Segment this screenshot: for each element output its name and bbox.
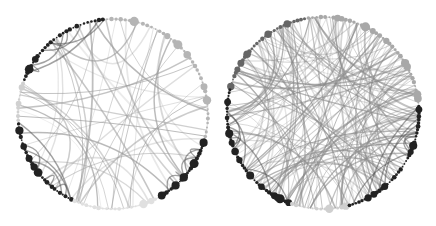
- node: [351, 203, 354, 206]
- node: [396, 51, 400, 55]
- node: [227, 95, 229, 97]
- node: [290, 202, 294, 206]
- node: [150, 26, 153, 29]
- node: [52, 38, 55, 41]
- node: [97, 18, 101, 22]
- node: [106, 18, 108, 20]
- node: [328, 16, 330, 18]
- node: [251, 47, 254, 50]
- node: [67, 197, 69, 199]
- node: [56, 37, 58, 39]
- node: [331, 16, 335, 20]
- node: [231, 148, 239, 156]
- node: [292, 20, 296, 24]
- node: [94, 19, 97, 22]
- node: [386, 183, 389, 186]
- node: [237, 60, 244, 67]
- node: [203, 96, 211, 104]
- node: [319, 15, 324, 20]
- node: [117, 207, 121, 211]
- node: [39, 52, 41, 54]
- node: [58, 33, 62, 37]
- node: [101, 17, 105, 21]
- node: [122, 207, 124, 209]
- node: [278, 25, 282, 29]
- node: [24, 74, 28, 78]
- node: [135, 205, 137, 207]
- node: [303, 17, 306, 20]
- node: [53, 187, 57, 191]
- node: [357, 23, 359, 25]
- node: [232, 74, 236, 78]
- node: [312, 208, 314, 210]
- right-network: [224, 15, 422, 213]
- node: [16, 101, 22, 107]
- node: [114, 17, 117, 20]
- node: [85, 203, 89, 207]
- node: [308, 207, 310, 209]
- node: [102, 207, 104, 209]
- node: [228, 91, 231, 94]
- node: [195, 68, 198, 71]
- node: [402, 166, 404, 168]
- node: [414, 85, 416, 87]
- node: [191, 60, 195, 64]
- node: [141, 22, 145, 26]
- node: [315, 207, 319, 211]
- node: [199, 149, 203, 153]
- node: [24, 151, 28, 155]
- edge: [125, 20, 171, 189]
- node: [410, 76, 414, 80]
- node: [415, 131, 418, 134]
- node: [417, 121, 421, 125]
- node: [399, 167, 403, 171]
- node: [32, 62, 34, 64]
- node: [413, 90, 421, 98]
- node: [17, 110, 20, 113]
- node: [404, 163, 406, 165]
- node: [236, 154, 238, 156]
- node: [255, 181, 258, 184]
- node: [323, 15, 327, 19]
- node: [414, 139, 416, 141]
- node: [226, 123, 229, 126]
- node: [43, 46, 46, 49]
- node: [20, 90, 22, 92]
- node: [17, 122, 20, 125]
- node: [325, 205, 333, 213]
- node: [19, 95, 21, 97]
- node: [205, 130, 208, 133]
- node: [389, 181, 391, 183]
- node: [19, 84, 25, 90]
- node: [202, 82, 204, 84]
- node: [348, 19, 352, 23]
- node: [226, 104, 229, 107]
- node: [273, 29, 276, 32]
- node: [294, 203, 298, 207]
- node: [96, 206, 101, 211]
- node: [199, 76, 203, 80]
- node: [255, 42, 258, 45]
- node: [226, 114, 228, 116]
- node: [254, 179, 256, 181]
- node: [203, 139, 206, 142]
- network-diagrams: [0, 0, 436, 226]
- node: [90, 20, 93, 23]
- node: [93, 205, 97, 209]
- edge: [22, 86, 129, 208]
- node: [109, 17, 113, 21]
- left-network: [15, 17, 211, 211]
- node: [360, 199, 363, 202]
- node: [158, 29, 162, 33]
- node: [395, 173, 398, 176]
- node: [205, 94, 208, 97]
- node: [264, 35, 266, 37]
- node: [46, 43, 50, 47]
- node: [295, 18, 299, 22]
- node: [74, 24, 79, 29]
- node: [118, 17, 122, 21]
- node: [89, 205, 91, 207]
- node: [258, 40, 261, 43]
- node: [360, 23, 364, 27]
- node: [23, 78, 26, 81]
